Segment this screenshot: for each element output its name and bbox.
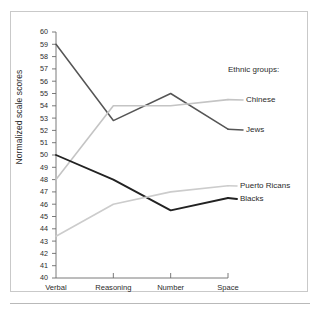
y-tick-label: 51 bbox=[34, 139, 48, 146]
y-tick-label: 46 bbox=[34, 201, 48, 208]
legend-title: Ethnic groups: bbox=[228, 66, 279, 74]
series-label-chinese: Chinese bbox=[246, 96, 275, 104]
y-tick-label: 42 bbox=[34, 250, 48, 257]
y-tick-label: 43 bbox=[34, 238, 48, 245]
y-tick-label: 47 bbox=[34, 188, 48, 195]
y-tick-label: 56 bbox=[34, 78, 48, 85]
y-tick-label: 41 bbox=[34, 262, 48, 269]
y-tick-label: 55 bbox=[34, 90, 48, 97]
y-tick-label: 45 bbox=[34, 213, 48, 220]
series-label-puerto-ricans: Puerto Ricans bbox=[240, 182, 290, 190]
x-category-label: Verbal bbox=[26, 284, 86, 292]
y-tick-label: 40 bbox=[34, 274, 48, 281]
y-tick-label: 58 bbox=[34, 53, 48, 60]
y-tick-label: 50 bbox=[34, 151, 48, 158]
series-label-blacks: Blacks bbox=[240, 195, 264, 203]
plot-area bbox=[0, 0, 320, 314]
y-tick-label: 49 bbox=[34, 164, 48, 171]
series-lines bbox=[56, 44, 228, 236]
y-tick-label: 54 bbox=[34, 102, 48, 109]
y-tick-label: 53 bbox=[34, 115, 48, 122]
y-tick-label: 59 bbox=[34, 41, 48, 48]
x-axis bbox=[56, 273, 228, 278]
series-label-jews: Jews bbox=[246, 126, 264, 134]
x-category-label: Number bbox=[141, 284, 201, 292]
x-category-label: Space bbox=[198, 284, 258, 292]
chart-figure: Normalized scale scores Ethnic groups: 4… bbox=[0, 0, 320, 314]
x-category-label: Reasoning bbox=[83, 284, 143, 292]
y-tick-label: 48 bbox=[34, 176, 48, 183]
y-tick-label: 57 bbox=[34, 65, 48, 72]
y-tick-label: 52 bbox=[34, 127, 48, 134]
y-tick-label: 44 bbox=[34, 225, 48, 232]
y-tick-label: 60 bbox=[34, 28, 48, 35]
